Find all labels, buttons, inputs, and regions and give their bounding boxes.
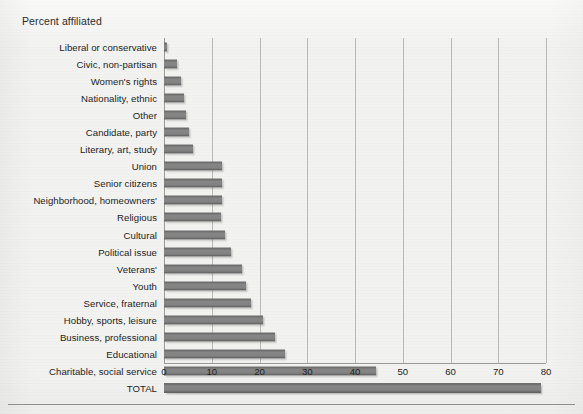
- category-label: Literary, art, study: [80, 144, 157, 155]
- gridline-80: [546, 38, 547, 363]
- bar-row: Business, professional: [164, 329, 546, 346]
- bar: [164, 93, 184, 102]
- x-tick-label: 20: [254, 366, 265, 377]
- x-tick-label: 0: [161, 366, 166, 377]
- chart-title: Percent affiliated: [22, 15, 102, 27]
- bar-row: Cultural: [164, 226, 546, 243]
- category-label: Women's rights: [91, 75, 157, 86]
- bar-row: Nationality, ethnic: [164, 89, 546, 106]
- bar: [164, 367, 376, 376]
- bar: [164, 230, 225, 239]
- category-label: Charitable, social service: [49, 366, 157, 377]
- bar: [164, 196, 222, 205]
- bar: [164, 316, 263, 325]
- bar: [164, 110, 186, 119]
- category-label: Union: [132, 161, 157, 172]
- category-label: Veterans': [117, 263, 157, 274]
- bar-row: Women's rights: [164, 72, 546, 89]
- category-label: Other: [133, 109, 157, 120]
- category-label: Liberal or conservative: [59, 41, 157, 52]
- figure-bottom-rule: [8, 404, 575, 405]
- bar: [164, 333, 275, 342]
- bar: [164, 76, 181, 85]
- bar-row: Neighborhood, homeowners': [164, 192, 546, 209]
- bar: [164, 42, 167, 51]
- bar-row: Hobby, sports, leisure: [164, 312, 546, 329]
- bar: [164, 213, 221, 222]
- category-label: Neighborhood, homeowners': [33, 195, 157, 206]
- category-label: Youth: [133, 280, 157, 291]
- bar: [164, 298, 251, 307]
- category-label: Business, professional: [60, 332, 157, 343]
- bar-row: Youth: [164, 277, 546, 294]
- x-axis-line: [164, 363, 546, 364]
- category-label: Political issue: [98, 246, 157, 257]
- bar-rows: Liberal or conservativeCivic, non-partis…: [164, 38, 546, 363]
- category-label: Educational: [106, 349, 157, 360]
- category-label: TOTAL: [127, 383, 157, 394]
- bar-row: TOTAL: [164, 380, 546, 397]
- category-label: Senior citizens: [94, 178, 157, 189]
- bar: [164, 383, 541, 393]
- bar-row: Educational: [164, 346, 546, 363]
- bar-row: Civic, non-partisan: [164, 55, 546, 72]
- category-label: Hobby, sports, leisure: [64, 315, 157, 326]
- plot-area: Liberal or conservativeCivic, non-partis…: [164, 38, 546, 363]
- bar-row: Religious: [164, 209, 546, 226]
- bar-row: Literary, art, study: [164, 141, 546, 158]
- bar-row: Candidate, party: [164, 123, 546, 140]
- x-tick-label: 80: [541, 366, 552, 377]
- x-tick-label: 10: [206, 366, 217, 377]
- category-label: Cultural: [124, 229, 157, 240]
- bar-row: Senior citizens: [164, 175, 546, 192]
- bar: [164, 145, 193, 154]
- bar: [164, 264, 242, 273]
- category-label: Service, fraternal: [84, 297, 157, 308]
- bar: [164, 162, 222, 171]
- category-label: Nationality, ethnic: [81, 92, 157, 103]
- bar-row: Liberal or conservative: [164, 38, 546, 55]
- category-label: Candidate, party: [86, 127, 157, 138]
- bar: [164, 281, 246, 290]
- bar: [164, 247, 231, 256]
- bar-row: Service, fraternal: [164, 294, 546, 311]
- x-tick-label: 40: [350, 366, 361, 377]
- bar-row: Union: [164, 158, 546, 175]
- x-tick-label: 60: [445, 366, 456, 377]
- bar: [164, 179, 222, 188]
- bar: [164, 59, 177, 68]
- bar-row: Veterans': [164, 260, 546, 277]
- x-tick-label: 70: [493, 366, 504, 377]
- x-tick-label: 30: [302, 366, 313, 377]
- x-tick-label: 50: [397, 366, 408, 377]
- category-label: Civic, non-partisan: [77, 58, 157, 69]
- bar-row: Political issue: [164, 243, 546, 260]
- bar: [164, 128, 189, 137]
- bar-chart-figure: Percent affiliated Liberal or conservati…: [0, 0, 583, 414]
- category-label: Religious: [117, 212, 157, 223]
- bar-row: Other: [164, 106, 546, 123]
- bar: [164, 350, 285, 359]
